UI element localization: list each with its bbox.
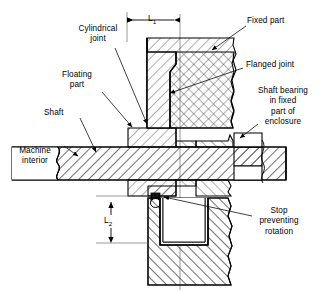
floating-part-upper [128,128,233,147]
label-floating-part: Floating part [50,70,104,91]
fixed-part-lower [148,198,232,285]
label-shaft: Shaft [44,108,94,118]
label-cylindrical-joint: Cylindrical joint [62,24,134,45]
label-fixed-part: Fixed part [247,16,317,26]
label-stop-preventing-rotation: Stop preventing rotation [248,206,310,237]
label-shaft-bearing: Shaft bearing in fixed part of enclosure [248,86,318,128]
dimension-l1-subscript: 1 [153,18,156,25]
figure-canvas: Cylindrical joint Floating part Shaft Ma… [0,0,322,292]
dimension-label-l2: L2 [104,215,112,227]
label-flanged-joint: Flanged joint [246,60,322,70]
dimension-label-l1: L1 [148,13,156,25]
label-machine-interior: Machine interior [6,146,64,167]
dimension-l2-subscript: 2 [109,220,112,227]
shaft-bearing-block [234,133,264,183]
floating-part-lower [128,180,231,196]
